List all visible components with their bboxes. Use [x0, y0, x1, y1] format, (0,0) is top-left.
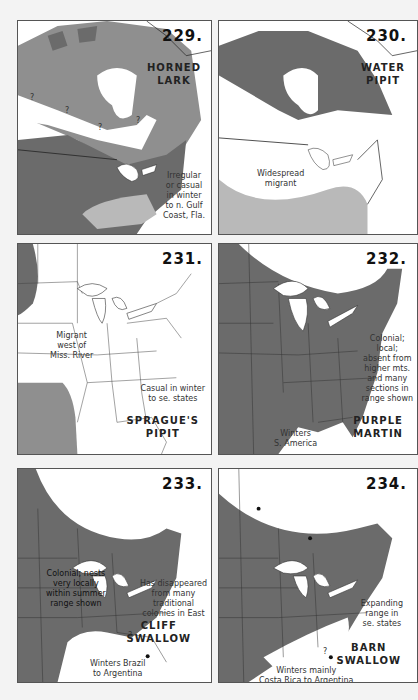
species-name: CLIFF SWALLOW	[127, 619, 191, 645]
map-number: 233.	[162, 475, 203, 493]
uncertain-marker: ?	[136, 116, 140, 125]
uncertain-marker: ?	[128, 631, 132, 640]
uncertain-marker: ?	[30, 93, 34, 102]
range-note: Migrant west of Miss. River	[50, 331, 93, 361]
species-name: SPRAGUE'S PIPIT	[127, 414, 199, 440]
range-note: Winters mainly Costa Rica to Argentina	[259, 666, 353, 683]
range-note: Winters Brazil to Argentina	[90, 659, 145, 679]
map-panel-cliff-swallow: 233. Colonial; nests very locally within…	[17, 468, 212, 683]
range-note: Expanding range in se. states	[361, 599, 403, 629]
map-panel-barn-swallow: 234. Expanding range in se. states BARN …	[218, 468, 418, 683]
range-note: Irregular or casual in winter to n. Gulf…	[163, 171, 205, 221]
map-number: 231.	[162, 250, 203, 268]
range-note: Colonial; local; absent from higher mts.…	[361, 334, 413, 404]
map-number: 232.	[366, 250, 407, 268]
uncertain-marker: ?	[98, 123, 102, 132]
species-name: PURPLE MARTIN	[353, 414, 403, 440]
range-note: Colonial; nests very locally within summ…	[46, 569, 106, 609]
species-name: WATER PIPIT	[361, 61, 405, 87]
map-panel-spragues-pipit: 231. Migrant west of Miss. River Casual …	[17, 243, 212, 455]
map-panel-water-pipit: 230. WATER PIPIT Widespread migrant	[218, 20, 418, 235]
species-name: BARN SWALLOW	[337, 641, 401, 667]
map-panel-purple-martin: 232. Colonial; local; absent from higher…	[218, 243, 418, 455]
uncertain-marker: ?	[65, 106, 69, 115]
range-note: Casual in winter to se. states	[141, 384, 205, 404]
map-number: 229.	[162, 27, 203, 45]
range-map-water-pipit	[219, 21, 417, 234]
species-name: HORNED LARK	[147, 61, 201, 87]
map-panel-horned-lark: 229. HORNED LARK Irregular or casual in …	[17, 20, 212, 235]
map-number: 234.	[366, 475, 407, 493]
range-note: Winters S. America	[274, 429, 317, 449]
map-number: 230.	[366, 27, 407, 45]
range-note: Widespread migrant	[257, 169, 304, 189]
uncertain-marker: ?	[323, 647, 327, 656]
range-note: Has disappeared from many traditional co…	[140, 579, 207, 619]
